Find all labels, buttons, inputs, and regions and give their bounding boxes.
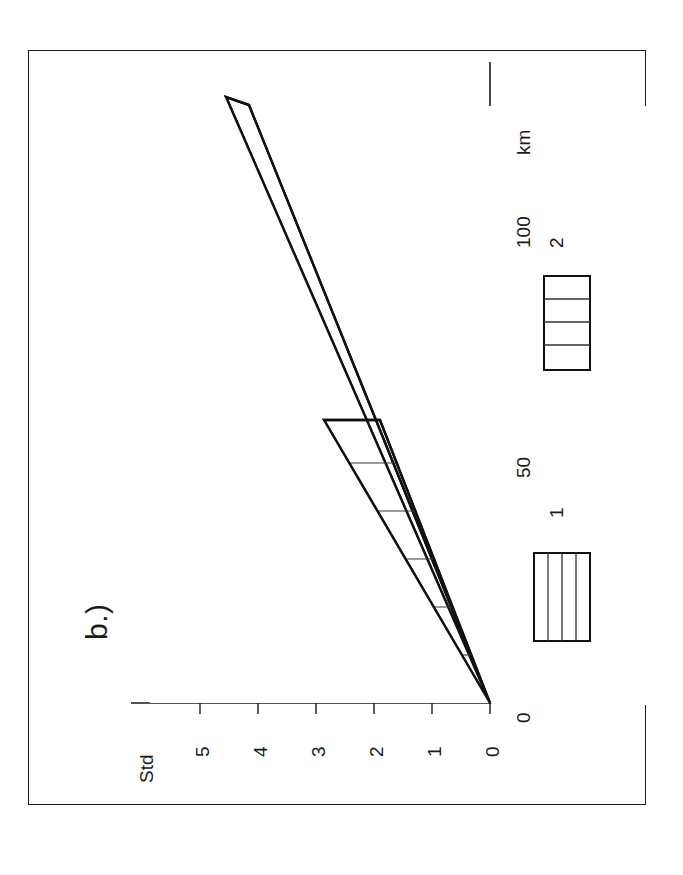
y-tick-label-2: 2 [366, 746, 388, 757]
legend-swatch-2 [544, 276, 590, 370]
x-axis-title: km [513, 130, 535, 155]
panel-label: b.) [80, 603, 114, 640]
y-tick-label-5: 5 [192, 746, 214, 757]
x-tick-label-50: 50 [513, 457, 535, 478]
x-tick-label-100: 100 [513, 216, 535, 248]
legend-label-1: 1 [546, 507, 568, 518]
x-tick-label-0: 0 [513, 712, 535, 723]
y-tick-label-3: 3 [308, 746, 330, 757]
y-axis-title: Std [136, 754, 158, 783]
y-tick-label-4: 4 [250, 746, 272, 757]
legend-label-2: 2 [546, 237, 568, 248]
legend-swatch-1 [534, 553, 590, 641]
y-tick-label-1: 1 [424, 746, 446, 757]
y-tick-label-0: 0 [482, 746, 504, 757]
figure-page: b.) 0 50 100 km 0 1 2 3 4 5 Std 1 2 [0, 0, 683, 875]
plot-canvas [0, 0, 683, 875]
